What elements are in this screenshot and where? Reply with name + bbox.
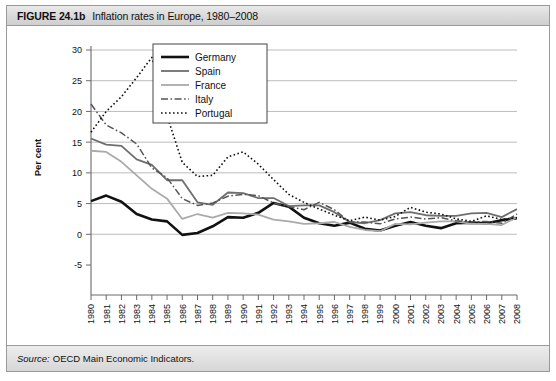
legend-label-germany: Germany: [195, 52, 236, 63]
x-tick-label: 1995: [315, 304, 325, 324]
figure-title: Inflation rates in Europe, 1980–2008: [92, 10, 258, 22]
x-tick-label: 2001: [406, 304, 416, 324]
x-tick-label: 2003: [436, 304, 446, 324]
legend-label-italy: Italy: [195, 94, 213, 105]
y-tick-label: 5: [77, 199, 82, 209]
y-tick-label: 25: [72, 76, 82, 86]
x-tick-label: 1987: [193, 304, 203, 324]
y-tick-label: -5: [74, 260, 82, 270]
x-tick-label: 2002: [421, 304, 431, 324]
x-tick-label: 1994: [299, 304, 309, 324]
x-tick-label: 2005: [467, 304, 477, 324]
x-tick-label: 1981: [102, 304, 112, 324]
figure-title-bar: FIGURE 24.1b Inflation rates in Europe, …: [7, 6, 549, 26]
legend-label-spain: Spain: [195, 66, 221, 77]
x-tick-label: 1993: [284, 304, 294, 324]
x-tick-label: 2007: [497, 304, 507, 324]
series-line-spain: [91, 138, 517, 223]
x-tick-label: 1989: [223, 304, 233, 324]
legend-label-france: France: [195, 80, 227, 91]
y-tick-label: 10: [72, 168, 82, 178]
inflation-line-chart: -505101520253019801981198219831984198519…: [7, 26, 549, 365]
figure-source-bar: Source: OECD Main Economic Indicators.: [7, 345, 549, 371]
y-tick-label: 20: [72, 107, 82, 117]
x-tick-label: 1997: [345, 304, 355, 324]
x-tick-label: 1982: [117, 304, 127, 324]
figure-number: FIGURE 24.1b: [17, 10, 85, 22]
legend-label-portugal: Portugal: [195, 108, 232, 119]
y-axis-title: Per cent: [32, 138, 43, 176]
x-tick-label: 1991: [254, 304, 264, 324]
y-tick-label: 30: [72, 45, 82, 55]
figure-container: FIGURE 24.1b Inflation rates in Europe, …: [0, 0, 556, 381]
x-tick-label: 2008: [512, 304, 522, 324]
x-tick-label: 1998: [360, 304, 370, 324]
x-tick-label: 1992: [269, 304, 279, 324]
x-tick-label: 1999: [375, 304, 385, 324]
source-text: OECD Main Economic Indicators.: [53, 353, 195, 364]
x-tick-label: 1980: [86, 304, 96, 324]
x-tick-label: 1986: [178, 304, 188, 324]
x-tick-label: 2000: [391, 304, 401, 324]
x-tick-label: 2004: [452, 304, 462, 324]
x-tick-label: 1996: [330, 304, 340, 324]
x-tick-label: 1984: [147, 304, 157, 324]
source-label: Source:: [17, 353, 50, 364]
figure-frame: FIGURE 24.1b Inflation rates in Europe, …: [6, 5, 550, 372]
chart-plot-area: -505101520253019801981198219831984198519…: [7, 26, 549, 365]
x-tick-label: 1983: [132, 304, 142, 324]
y-tick-label: 0: [77, 230, 82, 240]
y-tick-label: 15: [72, 138, 82, 148]
x-tick-label: 1988: [208, 304, 218, 324]
x-tick-label: 1990: [239, 304, 249, 324]
x-tick-label: 2006: [482, 304, 492, 324]
x-tick-label: 1985: [162, 304, 172, 324]
